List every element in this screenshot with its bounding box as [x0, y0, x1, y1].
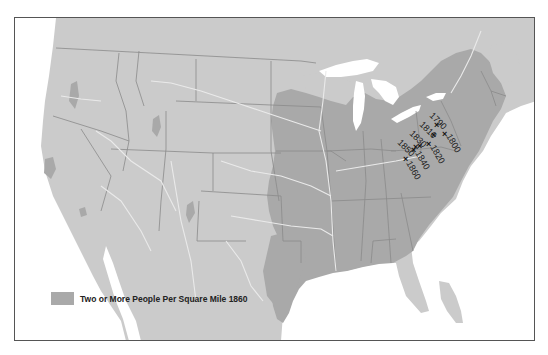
- legend-label: Two or More People Per Square Mile 1860: [80, 294, 248, 304]
- map-frame: × 1790 × 1800 × 1810 × 1820 × 1830 × 184…: [14, 17, 535, 341]
- map-legend: Two or More People Per Square Mile 1860: [51, 292, 248, 305]
- legend-swatch: [51, 292, 74, 305]
